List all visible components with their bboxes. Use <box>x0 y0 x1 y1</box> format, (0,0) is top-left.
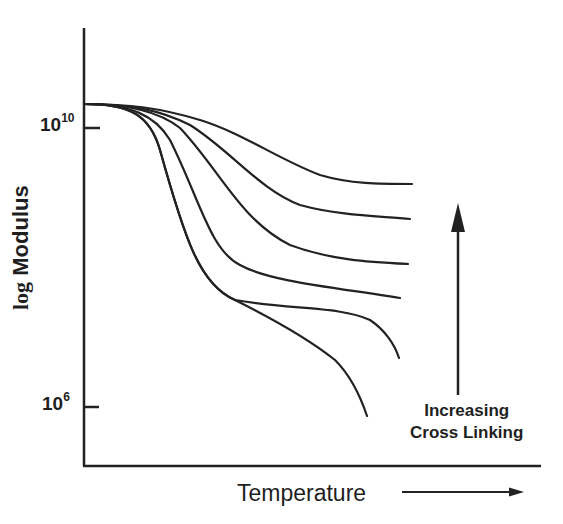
tick-exponent: 6 <box>63 390 70 404</box>
y-axis-label: log Modulus <box>8 185 34 310</box>
modulus-temperature-chart <box>0 0 563 524</box>
y-tick-label-1e10: 1010 <box>40 113 75 136</box>
y-axis-label-main: Modulus <box>8 185 33 275</box>
x-axis-label: Temperature <box>237 480 366 507</box>
temperature-arrow <box>402 488 524 497</box>
curve-3 <box>84 104 408 264</box>
arrow-up-icon <box>451 203 465 232</box>
cross-linking-annotation: Increasing Cross Linking <box>410 400 523 444</box>
arrow-right-icon <box>509 488 524 497</box>
annotation-line-1: Increasing <box>410 400 523 422</box>
tick-exponent: 10 <box>61 111 74 125</box>
annotation-line-2: Cross Linking <box>410 422 523 444</box>
cross-linking-arrow <box>451 203 465 395</box>
tick-base: 10 <box>40 114 61 135</box>
curve-5 <box>84 104 399 358</box>
y-tick-label-1e6: 106 <box>42 392 70 415</box>
curves <box>84 104 412 416</box>
tick-base: 10 <box>42 393 63 414</box>
curve-2 <box>84 104 410 219</box>
y-axis-label-prefix: log <box>8 282 33 310</box>
curve-4 <box>84 104 400 298</box>
